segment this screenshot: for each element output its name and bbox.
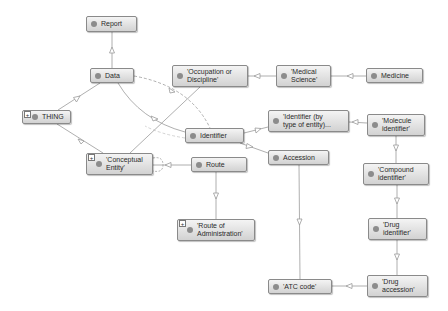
class-dot-icon [95, 73, 101, 79]
node-label: 'Molecule identifier' [382, 117, 411, 133]
node-drug-accession[interactable]: 'Drug accession' [367, 275, 428, 297]
node-route-of-administration[interactable]: +'Route of Administration' [177, 219, 255, 241]
node-label: 'Medical Science' [291, 68, 317, 84]
edges-layer [0, 0, 448, 311]
node-label: 'Compound identifier' [378, 166, 414, 182]
class-dot-icon [96, 161, 102, 167]
node-label: 'Drug accession' [382, 278, 414, 294]
node-label: 'Identifier (by type of entity)... [283, 113, 331, 129]
node-label: 'Drug identifier' [383, 221, 411, 237]
arrowhead-icon [297, 219, 302, 225]
arrowhead-icon [78, 139, 84, 144]
node-accession[interactable]: Accession [268, 150, 329, 165]
class-dot-icon [372, 122, 378, 128]
node-atc-code[interactable]: 'ATC code' [268, 279, 332, 294]
node-identifier[interactable]: Identifier [185, 128, 244, 143]
class-dot-icon [190, 133, 196, 139]
arrowhead-icon [165, 163, 171, 168]
arrowhead-icon [110, 47, 115, 53]
class-dot-icon [371, 73, 377, 79]
arrowhead-icon [74, 96, 81, 102]
node-label: 'Conceptual Entity' [106, 156, 143, 172]
class-dot-icon [32, 114, 38, 120]
node-route[interactable]: Route [191, 157, 247, 172]
edge-dashed-return [145, 126, 185, 138]
node-medicine[interactable]: Medicine [366, 68, 423, 83]
node-molecule-identifier[interactable]: 'Molecule identifier' [367, 114, 425, 136]
node-label: Route [206, 161, 225, 169]
node-label: 'Route of Administration' [197, 222, 243, 238]
node-report[interactable]: Report [86, 16, 137, 32]
node-label: THING [42, 113, 64, 121]
edge-conceptual-occupation [130, 87, 200, 153]
node-thing[interactable]: +THING [22, 110, 71, 124]
node-identifier-by-type[interactable]: 'Identifier (by type of entity)... [268, 110, 349, 132]
node-medical-science[interactable]: 'Medical Science' [276, 65, 331, 87]
ontology-graph-canvas[interactable]: ReportData+THING+'Conceptual Entity''Occ… [0, 0, 448, 311]
node-data[interactable]: Data [90, 68, 134, 83]
class-dot-icon [372, 283, 378, 289]
edge-data-identifier [118, 83, 185, 132]
node-label: Accession [283, 154, 315, 162]
expand-plus-icon[interactable]: + [24, 111, 31, 118]
node-label: Report [101, 20, 122, 28]
edge-thing-conceptual [57, 124, 103, 153]
node-occupation[interactable]: 'Occupation or Discipline' [172, 65, 248, 87]
class-dot-icon [281, 73, 287, 79]
class-dot-icon [368, 171, 374, 177]
edge-identifier-accession [240, 143, 268, 153]
class-dot-icon [273, 155, 279, 161]
arrowhead-icon [214, 193, 219, 199]
arrowhead-icon [255, 128, 261, 133]
arrowhead-icon [346, 284, 352, 289]
edge-self-loop [153, 158, 163, 172]
class-dot-icon [91, 21, 97, 27]
node-conceptual-entity[interactable]: +'Conceptual Entity' [86, 153, 153, 175]
arrowhead-icon [347, 74, 353, 79]
class-dot-icon [373, 226, 379, 232]
arrowhead-icon [352, 120, 358, 125]
class-dot-icon [177, 73, 183, 79]
node-label: Data [105, 72, 120, 80]
node-label: 'Occupation or Discipline' [187, 68, 232, 84]
node-drug-identifier[interactable]: 'Drug identifier' [368, 218, 427, 240]
node-label: Identifier [200, 132, 227, 140]
class-dot-icon [187, 227, 193, 233]
arrowhead-icon [254, 74, 260, 79]
expand-plus-icon[interactable]: + [88, 154, 95, 161]
expand-plus-icon[interactable]: + [179, 220, 186, 227]
node-label: 'ATC code' [283, 283, 316, 291]
arrowhead-icon [395, 254, 400, 260]
node-label: Medicine [381, 72, 409, 80]
arrowhead-icon [394, 145, 399, 151]
arrowhead-icon [395, 198, 400, 204]
node-compound-identifier[interactable]: 'Compound identifier' [363, 163, 429, 185]
arrowhead-icon [151, 116, 158, 121]
arrowhead-icon [246, 144, 253, 149]
class-dot-icon [196, 162, 202, 168]
class-dot-icon [273, 284, 279, 290]
class-dot-icon [273, 118, 279, 124]
